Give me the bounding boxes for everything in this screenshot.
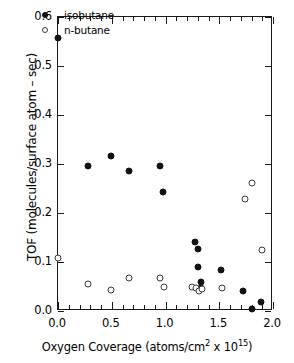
x-axis-tick xyxy=(101,305,102,309)
y-axis-tick-label: 0.1 xyxy=(16,254,52,268)
x-axis-tick-top xyxy=(209,17,210,21)
x-axis-label: Oxygen Coverage (atoms/cm2 x 1015) xyxy=(0,338,294,354)
x-axis-tick xyxy=(112,302,113,309)
data-point-isobutane xyxy=(218,266,225,273)
y-axis-tick-label: 0.5 xyxy=(16,58,52,72)
x-axis-tick xyxy=(144,305,145,309)
data-point-isobutane xyxy=(160,188,167,195)
y-axis-tick xyxy=(58,164,64,165)
data-point-isobutane xyxy=(85,163,92,170)
data-point-n-butane xyxy=(242,195,249,202)
y-axis-tick-right xyxy=(265,17,271,18)
data-point-n-butane xyxy=(248,179,255,186)
y-axis-tick-right xyxy=(265,213,271,214)
x-axis-tick xyxy=(219,302,220,309)
data-point-n-butane xyxy=(219,285,226,292)
x-axis-tick xyxy=(69,305,70,309)
x-axis-tick-top xyxy=(144,17,145,21)
y-axis-tick xyxy=(58,262,64,263)
x-axis-tick xyxy=(176,305,177,309)
data-point-isobutane xyxy=(125,168,132,175)
y-axis-tick-right xyxy=(265,66,271,67)
x-axis-tick xyxy=(187,305,188,309)
y-axis-tick-label: 0.3 xyxy=(16,156,52,170)
x-axis-tick-label: 2.0 xyxy=(263,316,281,330)
x-axis-tick xyxy=(262,305,263,309)
x-axis-tick xyxy=(273,302,274,309)
x-axis-tick-top xyxy=(187,17,188,21)
x-axis-tick xyxy=(133,305,134,309)
y-axis-tick-label: 0.0 xyxy=(16,303,52,317)
x-axis-tick-label: 1.0 xyxy=(156,316,174,330)
y-axis-tick xyxy=(58,311,64,312)
y-axis-tick-right xyxy=(265,262,271,263)
x-axis-tick xyxy=(123,305,124,309)
x-axis-tick xyxy=(198,305,199,309)
x-axis-tick-top xyxy=(176,17,177,21)
legend-label-n-butane: n-butane xyxy=(54,24,110,36)
x-axis-tick-label: 1.5 xyxy=(209,316,227,330)
y-axis-tick xyxy=(58,115,64,116)
data-point-isobutane xyxy=(239,288,246,295)
y-axis-tick-right xyxy=(265,164,271,165)
open-circle-marker-icon xyxy=(36,27,54,33)
x-axis-tick xyxy=(80,305,81,309)
data-point-n-butane xyxy=(125,274,132,281)
y-axis-tick xyxy=(58,213,64,214)
data-point-n-butane xyxy=(157,274,164,281)
y-axis-tick xyxy=(58,66,64,67)
plot-frame xyxy=(57,16,272,310)
x-axis-label-pre: Oxygen Coverage (atoms/cm xyxy=(42,340,205,354)
legend-label-isobutane: isobutane xyxy=(54,9,114,21)
x-axis-tick xyxy=(230,305,231,309)
x-axis-label-sup-exp: 15 xyxy=(238,338,248,348)
y-axis-tick-label: 0.6 xyxy=(16,9,52,23)
y-axis-tick-label: 0.2 xyxy=(16,205,52,219)
x-axis-tick xyxy=(166,302,167,309)
x-axis-tick-top xyxy=(198,17,199,21)
data-point-n-butane xyxy=(107,286,114,293)
x-axis-tick-top xyxy=(230,17,231,21)
data-point-isobutane xyxy=(194,245,201,252)
y-axis-tick-right xyxy=(265,115,271,116)
x-axis-label-mid: x 10 xyxy=(210,340,238,354)
data-point-isobutane xyxy=(107,152,114,159)
data-point-isobutane xyxy=(258,299,265,306)
x-axis-tick xyxy=(155,305,156,309)
x-axis-tick xyxy=(90,305,91,309)
data-point-isobutane xyxy=(194,264,201,271)
x-axis-label-post: ) xyxy=(248,340,252,354)
x-axis-tick-label: 0.0 xyxy=(48,316,66,330)
plot-area xyxy=(58,17,271,309)
data-point-isobutane xyxy=(157,163,164,170)
data-point-n-butane xyxy=(55,255,62,262)
x-axis-tick-top xyxy=(241,17,242,21)
data-point-n-butane xyxy=(199,286,206,293)
x-axis-tick-top xyxy=(262,17,263,21)
data-point-n-butane xyxy=(259,246,266,253)
x-axis-tick-top xyxy=(133,17,134,21)
x-axis-tick-label: 0.5 xyxy=(102,316,120,330)
x-axis-tick-top xyxy=(219,17,220,24)
data-point-n-butane xyxy=(161,284,168,291)
x-axis-tick xyxy=(58,302,59,309)
x-axis-tick-top xyxy=(273,17,274,24)
x-axis-tick xyxy=(241,305,242,309)
data-point-n-butane xyxy=(85,281,92,288)
x-axis-tick-top xyxy=(123,17,124,21)
legend-item-n-butane: n-butane xyxy=(36,22,114,37)
x-axis-tick-top xyxy=(166,17,167,24)
x-axis-tick xyxy=(252,305,253,309)
y-axis-tick-right xyxy=(265,311,271,312)
x-axis-tick xyxy=(209,305,210,309)
scatter-chart-figure: TOF (molecules/surface atom – sec) isobu… xyxy=(0,0,294,363)
x-axis-tick-top xyxy=(252,17,253,21)
x-axis-tick-top xyxy=(155,17,156,21)
y-axis-tick-label: 0.4 xyxy=(16,107,52,121)
